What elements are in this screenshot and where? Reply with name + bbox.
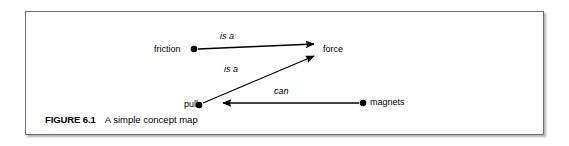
edge-label-is-a-upper: is a bbox=[220, 32, 234, 41]
edge-label-is-a-lower: is a bbox=[224, 65, 238, 74]
node-dot-friction bbox=[191, 46, 198, 53]
node-label-friction: friction bbox=[154, 45, 181, 54]
figure-caption-number: FIGURE 6.1 bbox=[45, 115, 96, 125]
node-label-pull: pull bbox=[184, 100, 198, 109]
figure-container: friction force pull magnets is a is a ca… bbox=[0, 0, 569, 146]
edge-pull-is-a-force bbox=[203, 56, 314, 103]
edge-line bbox=[203, 56, 314, 103]
figure-caption-text: A simple concept map bbox=[105, 115, 198, 125]
node-dot-magnets bbox=[360, 100, 367, 107]
node-label-force: force bbox=[323, 45, 343, 54]
figure-frame: friction force pull magnets is a is a ca… bbox=[25, 11, 544, 135]
figure-caption: FIGURE 6.1 A simple concept map bbox=[45, 115, 198, 125]
edge-friction-is-a-force bbox=[198, 44, 314, 49]
edge-line bbox=[198, 44, 314, 49]
node-label-magnets: magnets bbox=[370, 98, 405, 107]
edge-label-can: can bbox=[274, 87, 289, 96]
